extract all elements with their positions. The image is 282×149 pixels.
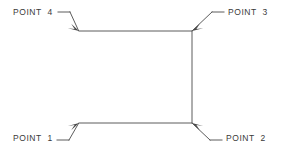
drawing-svg [0,0,282,149]
label-point-4: POINT 4 [13,8,53,17]
leader-point-3-diagonal [193,12,213,31]
label-point-1: POINT 1 [13,134,53,143]
technical-drawing-canvas: POINT 4 POINT 3 POINT 1 POINT 2 [0,0,282,149]
leader-point-2-diagonal [193,124,211,141]
arrowhead-point-2-icon [192,123,203,130]
arrowhead-point-3-icon [192,24,203,31]
leader-point-1-diagonal [69,124,79,141]
arrowhead-point-1-icon [68,123,79,130]
label-point-2: POINT 2 [226,134,266,143]
label-point-3: POINT 3 [228,8,268,17]
